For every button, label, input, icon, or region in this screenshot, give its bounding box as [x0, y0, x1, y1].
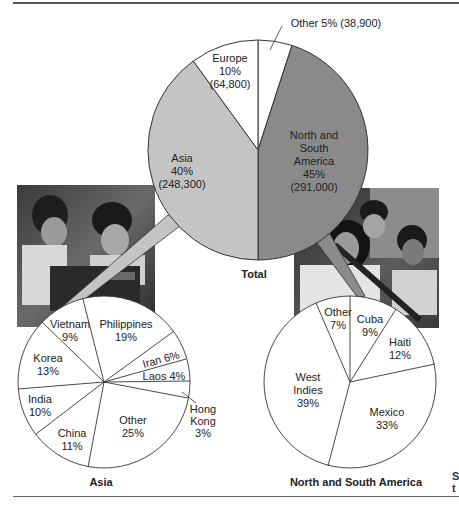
asia-label-india: India — [28, 393, 53, 405]
svg-text:12%: 12% — [389, 349, 411, 361]
svg-text:33%: 33% — [376, 419, 398, 431]
svg-text:Kong: Kong — [190, 415, 216, 427]
svg-text:7%: 7% — [330, 319, 346, 331]
americas-label-westindies: West — [296, 371, 321, 383]
svg-text:45%: 45% — [303, 168, 325, 180]
total-label-other: Other 5% (38,900) — [291, 17, 382, 29]
svg-text:10%: 10% — [29, 406, 51, 418]
cropped-edge-text-1: S — [452, 470, 459, 482]
americas-label-cuba: Cuba — [357, 313, 384, 325]
asia-label-china: China — [58, 427, 88, 439]
svg-text:9%: 9% — [362, 326, 378, 338]
americas-title: North and South America — [290, 476, 423, 488]
svg-text:19%: 19% — [115, 331, 137, 343]
asia-title: Asia — [89, 476, 113, 488]
bottom-rule — [13, 496, 459, 497]
svg-text:11%: 11% — [61, 440, 82, 452]
total-title: Total — [241, 268, 266, 280]
cropped-edge-text-2: t — [452, 482, 456, 494]
svg-text:Indies: Indies — [293, 384, 323, 396]
svg-text:40%: 40% — [171, 165, 193, 177]
americas-label-other: Other — [324, 306, 352, 318]
svg-text:(291,000): (291,000) — [290, 181, 337, 193]
americas-label-haiti: Haiti — [389, 336, 411, 348]
svg-text:10%: 10% — [219, 65, 241, 77]
svg-text:(64,800): (64,800) — [210, 78, 251, 90]
asia-label-other: Other — [119, 414, 147, 426]
asia-label-laos: Laos 4% — [143, 370, 186, 382]
svg-text:13%: 13% — [37, 365, 59, 377]
total-pie — [148, 40, 368, 260]
total-label-europe: Europe — [212, 52, 247, 64]
americas-label-mexico: Mexico — [370, 406, 405, 418]
asia-label-hongkong: Hong — [190, 403, 216, 415]
total-label-asia: Asia — [171, 152, 193, 164]
svg-text:America: America — [294, 155, 335, 167]
svg-text:39%: 39% — [297, 397, 319, 409]
svg-text:South: South — [300, 142, 329, 154]
immigration-pie-charts: Other 5% (38,900) Europe 10% (64,800) No… — [0, 0, 459, 506]
americas-pie — [264, 296, 436, 468]
total-label-americas: North and — [290, 129, 338, 141]
asia-label-korea: Korea — [33, 352, 63, 364]
svg-text:25%: 25% — [122, 427, 144, 439]
svg-text:3%: 3% — [195, 427, 211, 439]
asia-label-vietnam: Vietnam — [50, 318, 90, 330]
svg-text:(248,300): (248,300) — [158, 178, 205, 190]
asia-label-philippines: Philippines — [99, 318, 153, 330]
svg-text:9%: 9% — [62, 331, 78, 343]
